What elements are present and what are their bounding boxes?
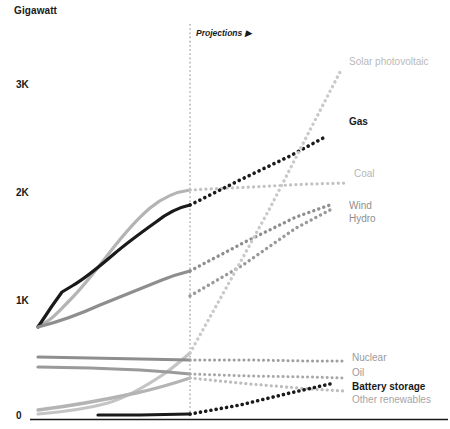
series-line-other-renewables-history (38, 378, 190, 410)
series-line-other-renewables-projection (190, 378, 345, 391)
series-line-coal-projection (190, 183, 345, 190)
series-line-oil-history (38, 367, 190, 374)
series-line-wind-history (38, 271, 190, 327)
series-label-solar: Solar photovoltaic (349, 56, 429, 68)
series-label-gas: Gas (349, 116, 368, 128)
series-line-oil-projection (190, 374, 345, 378)
series-label-oil: Oil (352, 367, 364, 379)
series-line-nuclear-history (38, 357, 190, 360)
series-label-other-renewables: Other renewables (352, 394, 431, 406)
series-line-battery-history (98, 414, 190, 415)
series-label-wind: Wind (349, 200, 372, 212)
series-line-solar-projection (190, 72, 340, 353)
series-line-battery-projection (190, 384, 330, 414)
energy-capacity-chart: Gigawatt 3K 2K 1K 0 Projections ▶ (0, 0, 450, 429)
series-label-battery-storage: Battery storage (352, 381, 425, 393)
series-line-hydro-projection (190, 210, 330, 296)
series-label-coal: Coal (354, 168, 375, 180)
series-label-nuclear: Nuclear (352, 352, 386, 364)
series-line-coal-history (38, 190, 190, 326)
series-label-hydro: Hydro (349, 213, 376, 225)
series-line-nuclear-projection (190, 360, 345, 361)
series-line-wind-projection (190, 205, 330, 271)
series-line-gas-projection (190, 137, 325, 205)
